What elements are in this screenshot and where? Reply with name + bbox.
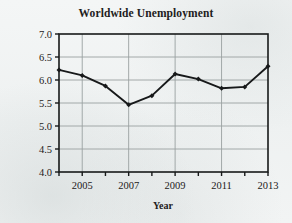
svg-text:7.0: 7.0 (39, 29, 52, 40)
data-series-line (59, 66, 268, 105)
svg-text:2005: 2005 (72, 180, 93, 191)
y-axis-tick-labels: 4.04.55.05.56.06.57.0 (39, 29, 52, 178)
svg-text:2009: 2009 (165, 180, 186, 191)
svg-text:4.5: 4.5 (39, 144, 52, 155)
svg-text:5.0: 5.0 (39, 121, 52, 132)
plot-area: 4.04.55.05.56.06.57.0 200520072009201120… (0, 0, 292, 223)
svg-text:4.0: 4.0 (39, 167, 52, 178)
grid-lines (59, 34, 268, 172)
svg-text:2011: 2011 (211, 180, 232, 191)
svg-text:6.0: 6.0 (39, 75, 52, 86)
svg-text:2013: 2013 (258, 180, 279, 191)
svg-text:2007: 2007 (118, 180, 139, 191)
svg-text:6.5: 6.5 (39, 52, 52, 63)
x-axis-tick-labels: 20052007200920112013 (72, 180, 279, 191)
unemployment-line-chart: Worldwide Unemployment Rate (as a %) Yea… (0, 0, 292, 223)
svg-text:5.5: 5.5 (39, 98, 52, 109)
